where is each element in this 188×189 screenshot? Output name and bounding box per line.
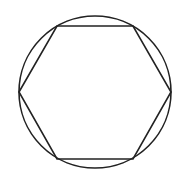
inscribed-hexagon bbox=[19, 26, 171, 159]
hexagon-in-circle-diagram bbox=[0, 0, 188, 189]
circumscribed-circle bbox=[19, 16, 171, 168]
